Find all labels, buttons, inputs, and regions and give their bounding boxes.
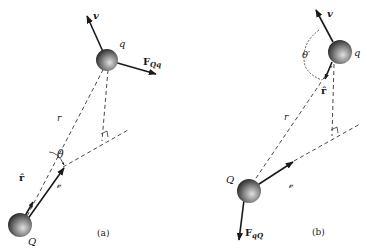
angle-label-a: θ	[57, 148, 64, 161]
charge-Q-sphere-a	[8, 213, 32, 237]
separation-vector-label-a: 𝓋	[56, 179, 62, 190]
velocity-label-a: v	[93, 10, 99, 21]
charge-Q-label-a: Q	[28, 236, 36, 247]
panel-a: θ v FQq q r 𝓋 r̂ Q (a)	[8, 10, 161, 247]
separation-vector-label-b: 𝓋	[288, 179, 294, 190]
charge-Q-sphere-b	[237, 179, 261, 203]
charge-Q-label-b: Q	[226, 174, 234, 185]
separation-label-a: r	[57, 113, 62, 123]
unit-vector-label-b: r̂	[321, 85, 327, 96]
caption-a: (a)	[97, 228, 109, 238]
charge-q-label-b: q	[354, 47, 360, 58]
perpendicular-line-b	[332, 64, 334, 136]
extension-line-a	[63, 130, 128, 167]
angle-label-b: θ′	[302, 49, 311, 60]
separation-line-a	[24, 68, 104, 222]
extension-line-b	[294, 124, 360, 161]
force-label-a: FQq	[143, 56, 161, 69]
unit-vector-arrow-b	[325, 62, 332, 79]
velocity-arrow-a	[87, 16, 104, 54]
charge-q-sphere-b	[328, 40, 352, 64]
panel-b: θ′ v r̂ q r 𝓋 FqQ Q (b)	[226, 8, 360, 240]
unit-vector-label-a: r̂	[19, 172, 25, 183]
separation-vector-arrow-a	[27, 168, 64, 220]
charge-q-label-a: q	[119, 38, 125, 49]
perpendicular-line-a	[102, 70, 108, 141]
force-label-b: FqQ	[245, 227, 263, 240]
separation-line-b	[252, 66, 332, 184]
charge-q-sphere-a	[96, 49, 118, 71]
caption-b: (b)	[312, 227, 325, 237]
separation-label-b: r	[284, 112, 289, 122]
force-arrow-b	[239, 200, 244, 240]
velocity-label-b: v	[327, 8, 333, 19]
figure-canvas: θ v FQq q r 𝓋 r̂ Q (a) θ′ v	[0, 0, 367, 248]
